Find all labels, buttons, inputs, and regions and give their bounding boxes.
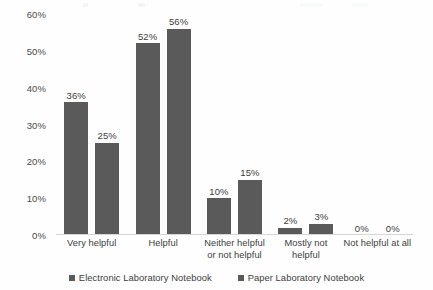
- bar[interactable]: [136, 43, 160, 235]
- bar-column[interactable]: 36%: [64, 14, 88, 235]
- x-axis-labels: Very helpfulHelpfulNeither helpful or no…: [56, 238, 413, 268]
- y-axis-tick-label: 20%: [27, 156, 46, 167]
- bar-column[interactable]: 0%: [350, 14, 374, 235]
- chart-legend: Electronic Laboratory NotebookPaper Labo…: [0, 272, 433, 283]
- bar[interactable]: [207, 198, 231, 235]
- bar[interactable]: [64, 102, 88, 235]
- x-axis-category-label: Mostly not helpful: [270, 238, 341, 268]
- bar-column[interactable]: 56%: [167, 14, 191, 235]
- y-axis: 60%50%40%30%20%10%0%: [0, 14, 52, 235]
- y-axis-tick-label: 30%: [27, 119, 46, 130]
- bar-value-label: 2%: [283, 215, 297, 226]
- legend-swatch-icon: [69, 275, 75, 281]
- bar-value-label: 52%: [138, 31, 157, 42]
- x-axis-category-label: Helpful: [127, 238, 198, 268]
- legend-item[interactable]: Electronic Laboratory Notebook: [69, 272, 212, 283]
- bar-column[interactable]: 0%: [381, 14, 405, 235]
- x-axis-category-label: Very helpful: [56, 238, 127, 268]
- y-axis-tick-label: 0%: [32, 230, 46, 241]
- y-axis-tick-label: 50%: [27, 45, 46, 56]
- y-axis-tick-label: 40%: [27, 82, 46, 93]
- plot-area: 36%25%52%56%10%15%2%3%0%0%: [56, 14, 413, 235]
- bar-group: 10%15%: [199, 14, 270, 235]
- legend-label: Electronic Laboratory Notebook: [79, 272, 212, 283]
- bar[interactable]: [95, 143, 119, 235]
- bar-group: 2%3%: [270, 14, 341, 235]
- legend-swatch-icon: [238, 275, 244, 281]
- bar-value-label: 3%: [314, 211, 328, 222]
- bar-groups: 36%25%52%56%10%15%2%3%0%0%: [56, 14, 413, 235]
- bar-value-label: 15%: [240, 167, 259, 178]
- scan-artifact-band: [0, 0, 433, 10]
- bar-column[interactable]: 25%: [95, 14, 119, 235]
- bar-value-label: 10%: [209, 186, 228, 197]
- bar-group: 0%0%: [342, 14, 413, 235]
- bar-value-label: 36%: [67, 90, 86, 101]
- legend-label: Paper Laboratory Notebook: [248, 272, 364, 283]
- bar-value-label: 0%: [386, 223, 400, 234]
- legend-item[interactable]: Paper Laboratory Notebook: [238, 272, 364, 283]
- bar-chart: 60%50%40%30%20%10%0% 36%25%52%56%10%15%2…: [0, 0, 433, 290]
- y-axis-tick-label: 60%: [27, 9, 46, 20]
- bar[interactable]: [167, 29, 191, 235]
- bar-column[interactable]: 3%: [309, 14, 333, 235]
- bar[interactable]: [238, 180, 262, 235]
- bar-group: 52%56%: [127, 14, 198, 235]
- x-axis-baseline: [56, 234, 413, 235]
- bar-column[interactable]: 10%: [207, 14, 231, 235]
- y-axis-tick-label: 10%: [27, 193, 46, 204]
- bar-value-label: 0%: [355, 223, 369, 234]
- bar-value-label: 25%: [98, 130, 117, 141]
- bar-group: 36%25%: [56, 14, 127, 235]
- x-axis-category-label: Neither helpful or not helpful: [199, 238, 270, 268]
- bar-column[interactable]: 52%: [136, 14, 160, 235]
- bar-column[interactable]: 15%: [238, 14, 262, 235]
- x-axis-category-label: Not helpful at all: [342, 238, 413, 268]
- bar-column[interactable]: 2%: [278, 14, 302, 235]
- bar-value-label: 56%: [169, 16, 188, 27]
